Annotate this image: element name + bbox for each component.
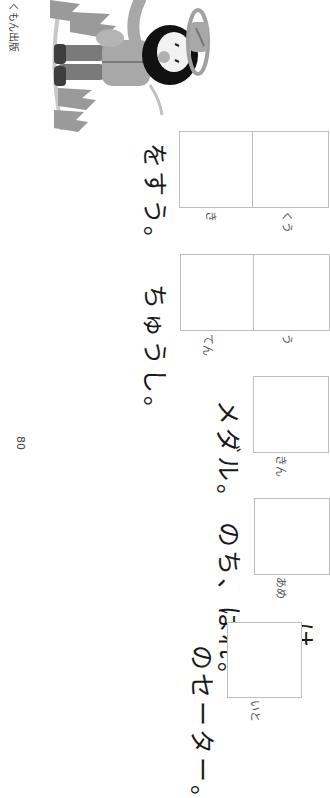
furigana-4b: てん (201, 334, 217, 356)
furigana-2: あめ (274, 577, 290, 599)
kanji-answer-box-3[interactable] (253, 376, 329, 453)
publisher-label: くもん出版 (7, 2, 22, 52)
kanji-answer-box-4[interactable] (180, 254, 330, 331)
furigana-1: いと (248, 700, 264, 722)
page-number: 80 (14, 436, 27, 450)
kanji-answer-box-5[interactable] (179, 131, 329, 208)
kanji-answer-box-1[interactable] (227, 622, 302, 698)
kanji-answer-box-2[interactable] (254, 498, 330, 575)
box-divider (252, 132, 253, 207)
furigana-5a: くう (280, 211, 296, 233)
furigana-3: きん (274, 455, 290, 477)
sentence-1: のセーター。 (186, 645, 222, 798)
furigana-5b: き (204, 211, 220, 222)
sentence-4: ちゅうし。 (139, 284, 175, 424)
box-divider (253, 255, 254, 330)
furigana-4a: う (280, 334, 296, 345)
sentence-5: をすう。 (139, 143, 175, 254)
sentence-3: メダル。 (212, 400, 248, 512)
hiker-illustration-icon (40, 0, 215, 140)
